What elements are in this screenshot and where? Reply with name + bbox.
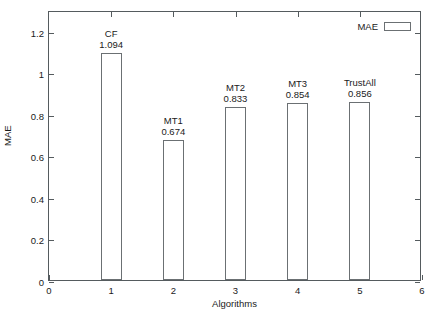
bar-mt1 [163,140,184,280]
x-tick-label: 3 [233,285,238,296]
y-tick-label: 1.2 [31,27,44,38]
legend-swatch-mae [384,22,411,31]
bar-value-label: 0.674 [161,126,185,137]
y-tick-mark [49,240,54,241]
x-tick-mark-top [111,12,112,17]
y-tick-mark-right [415,282,420,283]
x-tick-label: 6 [419,285,424,296]
bar-value-label: 0.833 [224,93,248,104]
x-tick-label: 0 [46,285,51,296]
y-tick-mark [49,33,54,34]
bar-value-label: 1.094 [99,39,123,50]
bar-annotation-mt3: MT30.854 [286,78,310,100]
bar-category-label: TrustAll [344,77,376,88]
legend: MAE [357,21,411,32]
y-tick-mark-right [415,199,420,200]
y-tick-label: 0.4 [31,193,44,204]
y-tick-label: 1 [39,69,44,80]
bar-cf [101,53,122,280]
y-tick-mark [49,282,54,283]
y-tick-label: 0.2 [31,235,44,246]
x-tick-mark-top [298,12,299,17]
y-tick-mark [49,74,54,75]
bar-mt3 [287,103,308,280]
bar-category-label: MT3 [286,78,310,89]
y-tick-mark-right [415,157,420,158]
y-tick-mark-right [415,33,420,34]
y-tick-mark-right [415,116,420,117]
bar-value-label: 0.856 [344,88,376,99]
bar-mt2 [225,107,246,280]
bar-chart: 00.20.40.60.811.2 0123456 CF1.094MT10.67… [0,0,439,320]
bar-category-label: CF [99,28,123,39]
x-tick-label: 1 [109,285,114,296]
y-tick-label: 0.8 [31,110,44,121]
bar-category-label: MT1 [161,115,185,126]
y-axis-title: MAE [2,125,13,146]
y-tick-mark [49,116,54,117]
bar-annotation-mt1: MT10.674 [161,115,185,137]
bar-annotation-trustall: TrustAll0.856 [344,77,376,99]
bar-value-label: 0.854 [286,89,310,100]
y-tick-mark [49,199,54,200]
bar-trustall [349,102,370,280]
bar-annotation-cf: CF1.094 [99,28,123,50]
x-tick-mark [49,275,50,280]
x-tick-mark-top [236,12,237,17]
bar-category-label: MT2 [224,82,248,93]
y-tick-label: 0 [39,277,44,288]
plot-area: 00.20.40.60.811.2 0123456 CF1.094MT10.67… [48,11,421,281]
bar-annotation-mt2: MT20.833 [224,82,248,104]
y-tick-label: 0.6 [31,152,44,163]
y-tick-mark [49,157,54,158]
x-tick-mark [422,275,423,280]
y-tick-mark-right [415,74,420,75]
x-tick-mark-top [360,12,361,17]
legend-label-mae: MAE [357,21,378,32]
x-tick-label: 5 [357,285,362,296]
x-tick-label: 4 [295,285,300,296]
x-tick-label: 2 [171,285,176,296]
x-tick-mark-top [173,12,174,17]
y-tick-mark-right [415,240,420,241]
x-axis-title: Algorithms [48,298,421,309]
